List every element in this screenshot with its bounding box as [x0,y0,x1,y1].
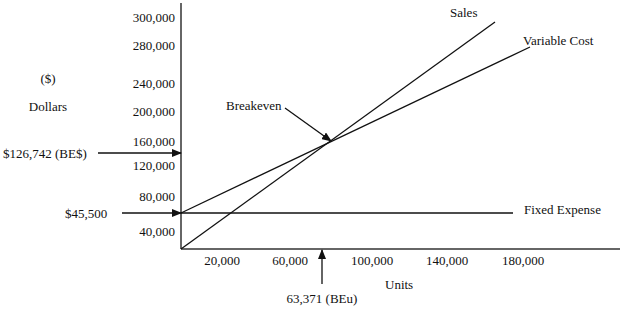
y-axis-title: Dollars [29,99,67,114]
y-tick-labels: 300,000280,000240,000200,000160,000120,0… [133,10,175,239]
variable-cost-line [181,47,530,213]
y-tick-label: 80,000 [139,189,175,204]
breakeven-label: Breakeven [226,98,282,113]
y-axis-unit-label: ($) [40,71,55,86]
y-tick-label: 200,000 [133,104,175,119]
fixed-expense-label: Fixed Expense [524,202,601,217]
x-tick-label: 60,000 [272,253,308,268]
y-tick-label: 40,000 [139,224,175,239]
x-axis-title: Units [385,277,413,292]
x-tick-label: 20,000 [204,253,240,268]
y-tick-label: 300,000 [133,10,175,25]
y-tick-label: 160,000 [133,134,175,149]
x-tick-label: 180,000 [502,253,544,268]
y-tick-label: 280,000 [133,38,175,53]
y-tick-label: 120,000 [133,158,175,173]
y-tick-label: 240,000 [133,76,175,91]
breakeven-chart: 300,000280,000240,000200,000160,000120,0… [0,0,626,309]
x-tick-labels: 20,00060,000100,000140,000180,000 [204,253,544,268]
variable-cost-label: Variable Cost [523,33,594,48]
x-tick-label: 100,000 [351,253,393,268]
x-tick-label: 140,000 [426,253,468,268]
sales-label: Sales [450,5,477,20]
breakeven-units-label: 63,371 (BEu) [287,291,358,306]
sales-line [181,22,495,249]
chart-canvas: 300,000280,000240,000200,000160,000120,0… [0,0,626,309]
breakeven-dollars-label: $126,742 (BE$) [3,146,87,161]
breakeven-arrow [285,108,331,141]
fixed-expense-value-label: $45,500 [65,206,107,221]
